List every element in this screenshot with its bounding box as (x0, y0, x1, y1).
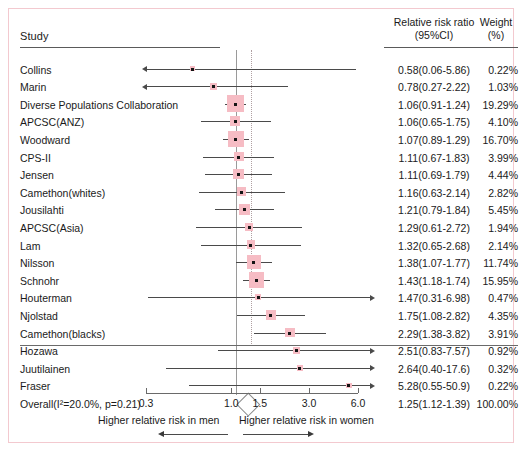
column-header-study: Study (20, 30, 49, 42)
study-weight-box (247, 255, 261, 269)
ci-arrow-right-icon (370, 383, 375, 389)
effect-estimate-value: 1.11(0.67-1.83) (386, 152, 482, 164)
confidence-interval-line (215, 209, 275, 210)
study-weight-value: 15.95% (470, 275, 518, 287)
study-label: Lam (20, 240, 40, 252)
study-weight-value: 5.45% (470, 204, 518, 216)
study-weight-box (293, 347, 300, 354)
study-weight-value: 0.22% (470, 64, 518, 76)
study-weight-box (346, 383, 351, 388)
ci-arrow-right-icon (370, 295, 375, 301)
point-estimate-marker (191, 68, 194, 71)
point-estimate-marker (234, 120, 237, 123)
overall-label: Overall(I²=20.0%, p=0.21) (20, 398, 141, 410)
point-estimate-marker (248, 226, 251, 229)
study-weight-box (266, 310, 276, 320)
point-estimate-marker (243, 208, 246, 211)
study-label: Marin (20, 81, 46, 93)
confidence-interval-line (199, 192, 286, 193)
column-header-weight-line2: (%) (474, 29, 518, 41)
study-label: Collins (20, 64, 52, 76)
ci-arrow-left-icon (142, 66, 147, 72)
study-label: Schnohr (20, 275, 59, 287)
study-weight-value: 3.91% (470, 328, 518, 340)
effect-estimate-value: 1.43(1.18-1.74) (386, 275, 482, 287)
column-header-weight-line1: Weight (474, 16, 518, 28)
point-estimate-marker (212, 85, 215, 88)
axis-caption-women: Higher relative risk in women (239, 414, 374, 426)
axis-tick-label: 3.0 (289, 397, 329, 409)
study-weight-value: 1.03% (470, 81, 518, 93)
null-effect-line (236, 50, 237, 395)
axis-tick-label: 0.3 (126, 397, 166, 409)
confidence-interval-line (166, 368, 370, 369)
study-label: Camethon(whites) (20, 187, 105, 199)
axis-tick (260, 388, 261, 393)
point-estimate-marker (237, 156, 240, 159)
confidence-interval-line (223, 139, 249, 140)
confidence-interval-line (148, 297, 370, 298)
confidence-interval-line (218, 350, 370, 351)
confidence-interval-line (243, 280, 270, 281)
header-rule-left (20, 47, 220, 48)
axis-tick (358, 388, 359, 393)
confidence-interval-line (189, 385, 370, 386)
overall-rule (20, 345, 518, 346)
confidence-interval-line (146, 69, 356, 70)
direction-arrow-women-shaft (243, 434, 308, 435)
direction-arrow-women-head-icon (308, 431, 314, 437)
effect-estimate-value: 1.29(0.61-2.72) (386, 222, 482, 234)
confidence-interval-line (203, 157, 274, 158)
study-weight-box (227, 95, 244, 112)
effect-estimate-value: 1.32(0.65-2.68) (386, 240, 482, 252)
ci-arrow-left-icon (142, 84, 147, 90)
study-weight-box (237, 187, 246, 196)
point-estimate-marker (234, 138, 237, 141)
confidence-interval-line (201, 121, 271, 122)
effect-estimate-value: 2.51(0.83-7.57) (386, 345, 482, 357)
study-weight-box (230, 116, 240, 126)
study-weight-value: 0.47% (470, 292, 518, 304)
study-weight-value: 19.29% (470, 99, 518, 111)
study-label: APCSC(Asia) (20, 222, 84, 234)
pooled-estimate-line (251, 50, 252, 346)
ci-arrow-right-icon (370, 348, 375, 354)
study-label: Camethon(blacks) (20, 328, 105, 340)
study-weight-box (239, 204, 250, 215)
effect-estimate-value: 1.38(1.07-1.77) (386, 257, 482, 269)
study-weight-value: 0.22% (470, 380, 518, 392)
study-label: Juutilainen (20, 363, 70, 375)
effect-estimate-value: 1.07(0.89-1.29) (386, 134, 482, 146)
confidence-interval-line (254, 333, 326, 334)
study-weight-box (249, 272, 265, 288)
study-label: Njolstad (20, 310, 58, 322)
study-weight-box (245, 223, 253, 231)
effect-estimate-value: 1.47(0.31-6.98) (386, 292, 482, 304)
point-estimate-marker (234, 103, 237, 106)
confidence-interval-line (205, 174, 272, 175)
study-weight-value: 1.94% (470, 222, 518, 234)
point-estimate-marker (255, 279, 258, 282)
effect-estimate-value: 1.11(0.69-1.79) (386, 169, 482, 181)
column-header-effect-line1: Relative risk ratio (388, 16, 480, 28)
study-weight-value: 16.70% (470, 134, 518, 146)
study-label: Woodward (20, 134, 70, 146)
axis-tick-label: 1.5 (240, 397, 280, 409)
study-weight-box (297, 365, 303, 371)
overall-weight-value: 100.00% (470, 398, 518, 410)
effect-estimate-value: 1.21(0.79-1.84) (386, 204, 482, 216)
study-weight-box (247, 240, 255, 248)
study-weight-value: 4.44% (470, 169, 518, 181)
confidence-interval-line (225, 104, 247, 105)
study-weight-value: 0.92% (470, 345, 518, 357)
effect-estimate-value: 2.29(1.38-3.82) (386, 328, 482, 340)
effect-estimate-value: 1.06(0.65-1.75) (386, 116, 482, 128)
study-label: Jensen (20, 169, 54, 181)
confidence-interval-line (196, 227, 302, 228)
effect-estimate-value: 1.06(0.91-1.24) (386, 99, 482, 111)
study-weight-value: 2.14% (470, 240, 518, 252)
effect-estimate-value: 2.64(0.40-17.6) (386, 363, 482, 375)
study-label: Houterman (20, 292, 72, 304)
study-label: Jousilahti (20, 204, 64, 216)
point-estimate-marker (249, 244, 252, 247)
